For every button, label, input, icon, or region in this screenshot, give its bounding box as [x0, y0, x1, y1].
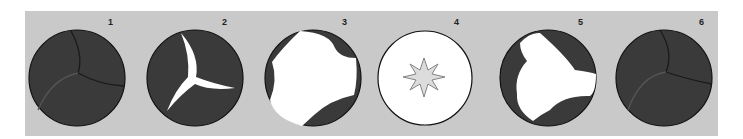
valve-3: 3: [265, 17, 361, 126]
valve-2-label: 2: [222, 17, 227, 27]
valve-6-label: 6: [699, 17, 704, 27]
valve-4-label: 4: [454, 17, 459, 27]
valve-6: 6: [616, 17, 712, 126]
valve-3-label: 3: [342, 17, 347, 27]
valve-1-label: 1: [108, 17, 113, 27]
valve-2: 2: [147, 17, 243, 126]
valve-1: 1: [29, 17, 125, 126]
valve-4: 4: [378, 17, 472, 125]
valve-sequence-diagram: 1 2 3 4 5 6: [0, 0, 743, 139]
valve-5: 5: [500, 17, 596, 126]
valve-5-label: 5: [578, 17, 583, 27]
